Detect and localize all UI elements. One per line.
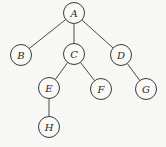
- edge-d-g: [127, 63, 140, 80]
- node-label: A: [69, 8, 77, 19]
- node-label: F: [97, 84, 106, 95]
- node-f: F: [91, 79, 112, 100]
- edge-a-d: [82, 20, 113, 48]
- edge-c-e: [55, 62, 68, 79]
- edge-c-f: [80, 62, 94, 80]
- tree-diagram: ABCDEFGH: [0, 0, 166, 147]
- tree-nodes: ABCDEFGH: [11, 3, 157, 138]
- edge-a-b: [29, 20, 66, 49]
- node-label: H: [44, 122, 54, 133]
- node-a: A: [64, 3, 85, 24]
- node-label: G: [142, 84, 150, 95]
- node-label: D: [116, 50, 125, 61]
- node-g: G: [136, 79, 157, 100]
- node-e: E: [39, 78, 60, 99]
- node-label: E: [44, 83, 53, 94]
- node-label: B: [16, 50, 24, 61]
- node-b: B: [11, 45, 32, 66]
- node-c: C: [64, 44, 85, 65]
- node-h: H: [39, 117, 60, 138]
- tree-edges: [29, 20, 140, 117]
- node-label: C: [70, 49, 78, 60]
- node-d: D: [111, 45, 132, 66]
